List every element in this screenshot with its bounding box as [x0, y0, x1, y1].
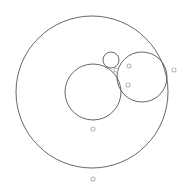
point-marker-p4 [172, 68, 176, 72]
circle-small-top [103, 52, 119, 68]
points-group [91, 64, 176, 181]
point-marker-p5 [91, 127, 95, 131]
point-marker-p2 [127, 64, 131, 68]
circles-group [16, 16, 168, 168]
circle-inner-left [65, 64, 121, 120]
diagram-canvas [0, 0, 190, 196]
circle-outer [16, 16, 168, 168]
point-marker-p3 [126, 83, 130, 87]
point-marker-p1 [114, 68, 118, 72]
circle-inner-right [117, 52, 167, 102]
point-marker-p6 [91, 177, 95, 181]
